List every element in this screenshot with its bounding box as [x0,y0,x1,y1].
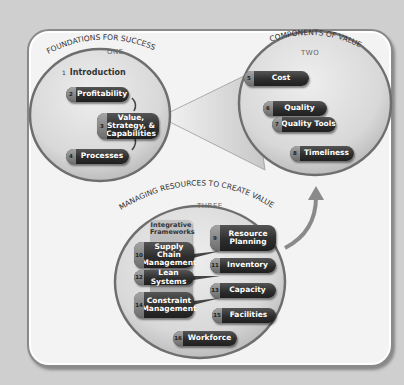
chapter-4-processes[interactable]: 4 Processes [66,149,129,164]
chapter-label: Processes [72,152,123,160]
chapter-number: 7 [272,117,282,132]
chapter-number: 6 [263,101,273,116]
section-number-three: THREE [197,202,223,210]
chapter-10-supply-chain[interactable]: 10 Supply Chain Management [134,242,194,268]
chapter-number: 14 [134,292,144,318]
chapter-13-capacity[interactable]: 13 Capacity [210,283,276,298]
chapter-15-facilities[interactable]: 15 Facilities [212,308,276,323]
chapter-label: Inventory [218,261,268,269]
chapter-label: Workforce [179,334,232,342]
chapter-1-introduction[interactable]: 1Introduction [62,68,126,77]
chapter-number: 13 [210,283,220,298]
chapter-16-workforce[interactable]: 16 Workforce [173,331,237,346]
chapter-number: 5 [244,71,254,86]
chapter-label: Timeliness [295,149,349,157]
integrative-frameworks-label: Integrative Frameworks [150,220,192,237]
chapter-6-quality[interactable]: 6 Quality [263,101,327,116]
section-number-two: TWO [301,49,319,57]
chapter-number: 2 [66,87,76,102]
chapter-number: 8 [290,146,300,161]
chapter-number: 10 [134,242,144,268]
chapter-number: 9 [210,225,220,251]
chapter-number: 12 [134,270,144,285]
chapter-3-value-strategy[interactable]: 3 Value, Strategy, & Capabilities [97,113,159,139]
chapter-number: 11 [210,258,220,273]
chapter-label: Introduction [70,68,126,77]
chapter-label: Quality [275,104,314,112]
chapter-number: 16 [173,331,183,346]
chapter-label: Cost [263,74,291,82]
chapter-number: 3 [97,113,107,139]
chapter-7-quality-tools[interactable]: 7 Quality Tools [272,117,336,132]
chapter-number: 1 [62,69,66,76]
section-number-one: ONE [107,48,124,56]
curved-arrow [285,197,316,248]
chapter-label: Profitability [68,90,127,98]
chapter-5-cost[interactable]: 5 Cost [244,71,309,86]
chapter-number: 15 [212,308,222,323]
chapter-label: Facilities [221,311,268,319]
curved-arrow-head [308,186,324,200]
chapter-11-inventory[interactable]: 11 Inventory [210,258,276,273]
chapter-2-profitability[interactable]: 2 Profitability [66,87,129,102]
chapter-label: Capacity [220,286,266,294]
chapter-12-lean-systems[interactable]: 12 Lean Systems [134,270,194,285]
chapter-number: 4 [66,149,76,164]
chapter-8-timeliness[interactable]: 8 Timeliness [290,146,354,161]
chapter-9-resource-planning[interactable]: 9 Resource Planning [210,225,276,251]
diagram-graphics: FOUNDATIONS FOR SUCCESS COMPONENTS OF VA… [0,0,404,385]
chapter-14-constraint-management[interactable]: 14 Constraint Management [134,292,194,318]
